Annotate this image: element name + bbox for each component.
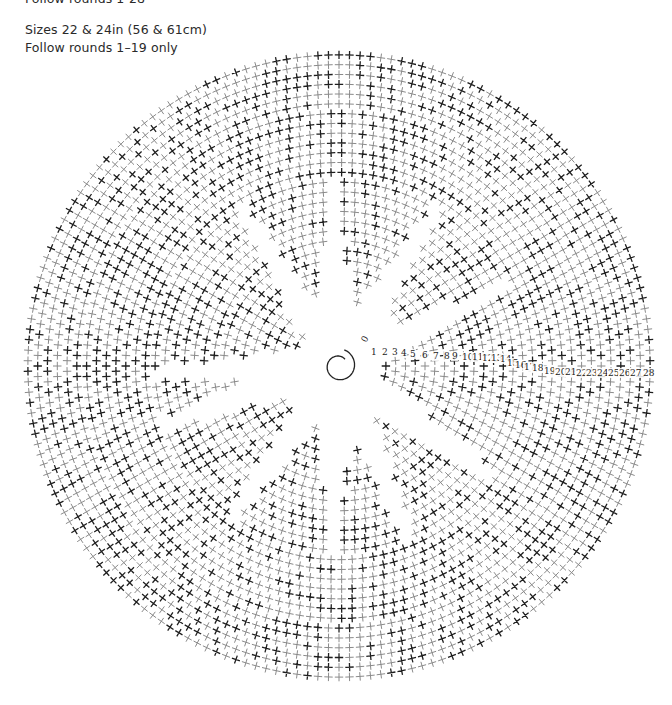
round-label: 1 bbox=[371, 347, 377, 357]
round-label: 7 bbox=[433, 351, 439, 361]
round-label: 26 bbox=[619, 368, 631, 378]
crochet-chart: 0123456789101112131415161718192021222324… bbox=[0, 0, 672, 705]
round-label: 25 bbox=[608, 368, 620, 378]
round-label: 28 bbox=[643, 368, 655, 378]
round-label: 23 bbox=[586, 368, 598, 378]
round-label: 3 bbox=[392, 347, 398, 357]
round-label: 18 bbox=[532, 363, 544, 373]
round-label: 5 bbox=[410, 349, 416, 359]
round-label: 21 bbox=[565, 367, 576, 377]
stitch-cross-icon bbox=[24, 51, 655, 680]
round-label: 6 bbox=[422, 350, 428, 360]
round-label: 27 bbox=[630, 368, 642, 378]
round-label: 2 bbox=[382, 347, 388, 357]
round-label: 24 bbox=[597, 368, 609, 378]
round-label: 19 bbox=[544, 366, 556, 376]
stitch-grid bbox=[24, 51, 655, 682]
round-label: 8 bbox=[444, 351, 450, 361]
round-label: 4 bbox=[401, 348, 407, 358]
round-label: 9 bbox=[452, 351, 458, 361]
magic-ring-spiral-icon bbox=[327, 350, 354, 380]
